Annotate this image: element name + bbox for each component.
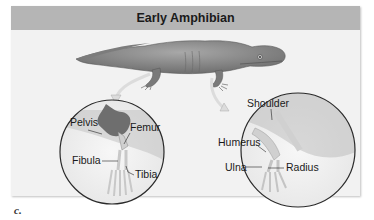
label-radius: Radius [286,161,319,173]
amphibian-illustration [76,41,285,91]
label-fibula: Fibula [72,154,101,166]
label-humerus: Humerus [218,136,261,148]
diagram-canvas: Pelvis Femur Fibula Tibia Shoulder Humer… [0,0,374,220]
label-femur: Femur [130,121,161,133]
figure-caption: c. [14,204,22,216]
arrow-to-hindlimb [111,74,150,104]
label-ulna: Ulna [225,161,247,173]
forelimb-inset: Shoulder Humerus Ulna Radius [218,93,360,207]
label-pelvis: Pelvis [70,116,98,128]
label-shoulder: Shoulder [247,97,290,109]
label-tibia: Tibia [135,168,158,180]
hindlimb-inset: Pelvis Femur Fibula Tibia [55,100,170,204]
